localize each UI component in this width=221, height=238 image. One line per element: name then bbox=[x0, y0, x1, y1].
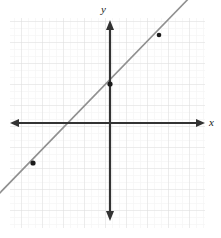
data-point bbox=[107, 81, 112, 86]
x-axis-label: x bbox=[209, 117, 214, 128]
data-point bbox=[157, 33, 162, 38]
data-point bbox=[30, 160, 35, 165]
coordinate-plane-figure: y x bbox=[0, 0, 221, 238]
graph-canvas bbox=[0, 0, 221, 238]
y-axis-label: y bbox=[101, 4, 106, 15]
